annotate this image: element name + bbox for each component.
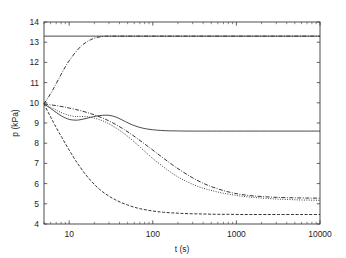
figure-background: [0, 0, 346, 258]
y-tick-label: 11: [30, 78, 39, 88]
y-tick-label: 9: [34, 118, 39, 128]
x-tick-label: 100: [146, 229, 160, 239]
y-tick-label: 6: [34, 179, 39, 189]
y-tick-label: 8: [34, 138, 39, 148]
chart-figure: 4567891011121314 10100100010000 t (s) p …: [0, 0, 346, 258]
y-axis-title: p (kPa): [10, 109, 20, 137]
y-tick-label: 13: [30, 37, 40, 47]
y-tick-label: 14: [30, 17, 40, 27]
chart-canvas: 4567891011121314 10100100010000 t (s) p …: [0, 0, 346, 258]
x-axis-title: t (s): [175, 244, 190, 254]
y-tick-label: 12: [30, 57, 40, 67]
y-tick-label: 7: [34, 158, 39, 168]
y-tick-label: 5: [34, 199, 39, 209]
y-tick-label: 10: [30, 98, 40, 108]
x-tick-label: 1000: [227, 229, 246, 239]
x-tick-label: 10: [64, 229, 74, 239]
x-tick-label: 10000: [308, 229, 332, 239]
y-tick-label: 4: [34, 219, 39, 229]
